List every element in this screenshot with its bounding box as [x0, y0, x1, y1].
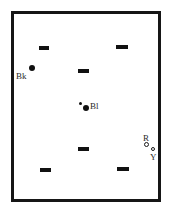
point-bl-label: Bl [90, 102, 99, 111]
point-y-label: Y [150, 153, 157, 162]
point-bk-dot[interactable] [29, 65, 35, 71]
dash-top-right [116, 45, 128, 49]
point-bk-label: Bk [16, 72, 27, 81]
dash-mid-upper [78, 69, 89, 73]
point-y-dot[interactable] [151, 147, 155, 151]
figure-canvas: BkBlRY [0, 0, 172, 216]
dash-mid-lower [78, 147, 89, 151]
dash-top-left [39, 46, 49, 50]
dash-bottom-right [117, 167, 129, 171]
point-bl-dot[interactable] [83, 105, 89, 111]
point-r-label: R [143, 134, 149, 143]
dash-bottom-left [40, 168, 51, 172]
point-bl-small-dot[interactable] [79, 102, 82, 105]
